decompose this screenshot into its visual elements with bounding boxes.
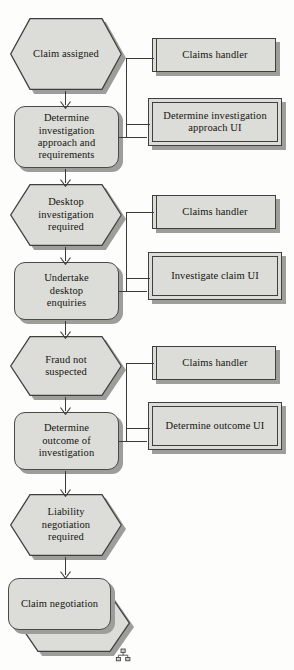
label-line: desktop	[20, 285, 113, 297]
label-line: investigation	[16, 209, 116, 221]
arrowhead-icon	[60, 331, 71, 339]
actor-label: Claims handler	[152, 49, 276, 61]
activity-label: Determine outcome of investigation	[14, 422, 119, 459]
activity-determine-investigation-approach[interactable]: Determine investigation approach and req…	[14, 106, 119, 168]
label-line: Desktop	[16, 196, 116, 208]
label-line: investigation	[20, 125, 113, 137]
activity-determine-outcome-of-investigation[interactable]: Determine outcome of investigation	[14, 412, 119, 470]
flowchart-canvas: Claim assigned Determine investigation a…	[0, 0, 294, 670]
event-label: Liability negotiation required	[10, 506, 122, 543]
label-line: Determine	[20, 422, 113, 434]
event-label: Desktop investigation required	[10, 196, 122, 233]
arrowhead-icon	[60, 407, 71, 415]
connector-activity-to-bus	[119, 291, 147, 292]
label-line: approach and	[20, 137, 113, 149]
connector-bus-to-system	[126, 428, 150, 429]
label-line: requirements	[20, 149, 113, 161]
actor-label: Claims handler	[152, 206, 276, 218]
connector-activity-to-bus	[119, 137, 147, 138]
activity-undertake-desktop-enquiries[interactable]: Undertake desktop enquiries	[14, 262, 119, 320]
connector-activity-to-bus	[119, 441, 147, 442]
system-determine-investigation-approach-ui[interactable]: Determine investigation approach UI	[148, 98, 282, 146]
label-line: Liability	[16, 506, 116, 518]
label-line: Determine	[20, 112, 113, 124]
connector-bus-to-actor	[126, 363, 154, 364]
event-label: Claim assigned	[10, 48, 122, 60]
connector-bus	[126, 363, 127, 442]
arrowhead-icon	[60, 257, 71, 265]
activity-label: Undertake desktop enquiries	[14, 272, 119, 309]
system-label: Determine investigation approach UI	[148, 110, 282, 135]
connector-bus-to-actor	[126, 212, 154, 213]
arrowhead-icon	[60, 489, 71, 497]
event-liability-negotiation-required[interactable]: Liability negotiation required	[10, 494, 122, 556]
label-line: negotiation	[16, 519, 116, 531]
label-line: suspected	[16, 366, 116, 378]
connector-bus-to-actor	[126, 58, 154, 59]
actor-claims-handler-1[interactable]: Claims handler	[152, 38, 276, 72]
label-line: required	[16, 221, 116, 233]
event-fraud-not-suspected[interactable]: Fraud not suspected	[10, 336, 122, 396]
activity-label: Determine investigation approach and req…	[14, 112, 119, 162]
event-label: Fraud not suspected	[10, 354, 122, 379]
arrowhead-icon	[60, 101, 71, 109]
label-line: Undertake	[20, 272, 113, 284]
label-line: outcome of	[20, 435, 113, 447]
label-line: approach UI	[154, 122, 276, 134]
connector-bus-to-system	[126, 278, 150, 279]
system-label: Investigate claim UI	[148, 270, 282, 282]
activity-label: Claim negotiation	[8, 598, 111, 610]
label-line: Fraud not	[16, 354, 116, 366]
system-determine-outcome-ui[interactable]: Determine outcome UI	[148, 402, 282, 450]
actor-claims-handler-2[interactable]: Claims handler	[152, 195, 276, 229]
label-line: required	[16, 531, 116, 543]
connector-bus	[126, 58, 127, 138]
label-line: investigation	[20, 447, 113, 459]
actor-label: Claims handler	[152, 357, 276, 369]
activity-claim-negotiation[interactable]: Claim negotiation	[8, 578, 111, 630]
label-line: Determine investigation	[154, 110, 276, 122]
arrowhead-icon	[60, 571, 71, 579]
connector-bus	[126, 212, 127, 292]
system-investigate-claim-ui[interactable]: Investigate claim UI	[148, 252, 282, 300]
connector-bus-to-system	[126, 124, 150, 125]
system-label: Determine outcome UI	[148, 420, 282, 432]
hierarchy-icon	[115, 648, 131, 664]
arrowhead-icon	[60, 179, 71, 187]
label-line: enquiries	[20, 297, 113, 309]
actor-claims-handler-3[interactable]: Claims handler	[152, 346, 276, 380]
event-desktop-investigation-required[interactable]: Desktop investigation required	[10, 184, 122, 246]
event-claim-assigned[interactable]: Claim assigned	[10, 18, 122, 90]
